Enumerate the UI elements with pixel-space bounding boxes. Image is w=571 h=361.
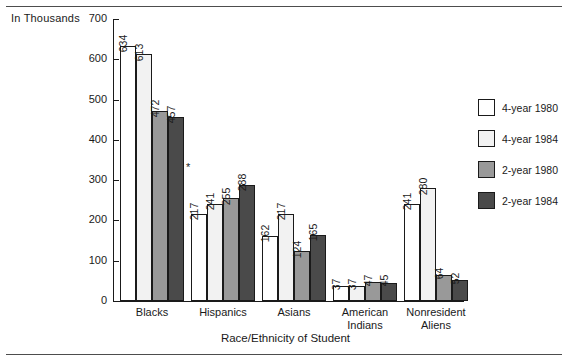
legend-label: 4-year 1980 (502, 102, 558, 114)
legend-label: 2-year 1980 (502, 164, 558, 176)
bar: 472 (152, 111, 168, 301)
bar-value-label: 613 (134, 43, 145, 61)
bar: 241 (207, 204, 223, 301)
bar: 634 (120, 46, 136, 301)
bar-value-label: 162 (260, 225, 271, 243)
bar: 124 (294, 251, 310, 301)
y-axis-unit-label: In Thousands (11, 12, 80, 24)
bar: 241 (404, 204, 420, 301)
bar: 217 (191, 214, 207, 301)
bar-value-label-wrap: 162 (260, 225, 271, 243)
x-axis-category-label: NonresidentAliens (386, 306, 486, 332)
bar-value-label-wrap: 47 (363, 274, 374, 286)
y-axis-tick-label-text: 200 (73, 214, 107, 225)
legend-label: 4-year 1984 (502, 133, 558, 145)
bar-value-label-wrap: 613 (134, 43, 145, 61)
bar-group: 217241255288 (191, 19, 255, 301)
bar-value-label-wrap: 217 (276, 203, 287, 221)
x-axis-title: Race/Ethnicity of Student (0, 332, 571, 344)
bar-value-label: 472 (150, 100, 161, 118)
legend-swatch (478, 161, 495, 178)
x-axis-category-label-line: Aliens (386, 319, 486, 332)
bar-value-label-wrap: 52 (450, 272, 461, 284)
bar: 280 (420, 188, 436, 301)
bar-value-label: 217 (276, 203, 287, 221)
bar-value-label-wrap: 217 (189, 203, 200, 221)
bar-value-label-wrap: 124 (292, 240, 303, 258)
bar-value-label-wrap: 634 (118, 35, 129, 53)
bar-value-label-wrap: 241 (402, 193, 413, 211)
x-axis-line (113, 301, 464, 302)
chart-figure: In Thousands 0100200300400500600700 6346… (0, 0, 571, 361)
bar: 255 (223, 198, 239, 301)
y-axis-tick-label-text: 100 (73, 255, 107, 266)
bar-value-label: 457 (166, 106, 177, 124)
bar-group: 2412806452 (404, 19, 468, 301)
y-axis-tick-label-text: 700 (73, 13, 107, 24)
y-axis-tick-label: 500 (73, 94, 107, 105)
bar: 37 (349, 286, 365, 301)
bar-value-label-wrap: 280 (418, 177, 429, 195)
bar: 288 (239, 185, 255, 301)
y-axis-tick-label: 700 (73, 13, 107, 24)
bar: 162 (262, 236, 278, 301)
bar-group: 37374745 (333, 19, 397, 301)
bar-value-label: 165 (308, 224, 319, 242)
legend-swatch (478, 192, 495, 209)
bar-value-label-wrap: 288 (237, 174, 248, 192)
bar-value-label-wrap: 165 (308, 224, 319, 242)
bar-group: 162217124165 (262, 19, 326, 301)
bar-value-label: 217 (189, 203, 200, 221)
bar-value-label: 241 (402, 193, 413, 211)
bar: 165 (310, 235, 326, 301)
y-axis-tick-label: 100 (73, 255, 107, 266)
y-axis-tick-label-text: 500 (73, 94, 107, 105)
bar: 457 (168, 117, 184, 301)
bar-value-label: 52 (450, 272, 461, 284)
bar-value-label: 45 (379, 275, 390, 287)
y-axis-tick-label-text: 300 (73, 174, 107, 185)
y-axis-tick-label-text: 600 (73, 53, 107, 64)
bar-value-label: 255 (221, 188, 232, 206)
asterisk-annotation: * (186, 163, 190, 172)
bar: 45 (381, 283, 397, 301)
bar-value-label: 37 (347, 278, 358, 290)
bar-value-label-wrap: 64 (434, 267, 445, 279)
y-axis-tick-label: 400 (73, 134, 107, 145)
y-axis-tick-label: 600 (73, 53, 107, 64)
y-axis-tick-label-text: 400 (73, 134, 107, 145)
bar-value-label-wrap: 37 (331, 278, 342, 290)
bar-value-label-wrap: 472 (150, 100, 161, 118)
y-axis-tick-label: 0 (73, 295, 107, 306)
bar-value-label-wrap: 241 (205, 193, 216, 211)
bar: 613 (136, 54, 152, 301)
bar-value-label-wrap: 37 (347, 278, 358, 290)
legend-swatch (478, 130, 495, 147)
y-axis-tick-label: 300 (73, 174, 107, 185)
y-axis-tick-label: 200 (73, 214, 107, 225)
bar-value-label-wrap: 457 (166, 106, 177, 124)
bar: 52 (452, 280, 468, 301)
legend-label: 2-year 1984 (502, 195, 558, 207)
x-axis-category-label-line: Nonresident (386, 306, 486, 319)
bar-value-label: 634 (118, 35, 129, 53)
bar-value-label: 241 (205, 193, 216, 211)
bottom-divider-rule (6, 354, 562, 355)
bar-group: 634613472457 (120, 19, 184, 301)
bar-value-label-wrap: 255 (221, 188, 232, 206)
bar-value-label: 124 (292, 240, 303, 258)
bar-value-label: 280 (418, 177, 429, 195)
bar-value-label-wrap: 45 (379, 275, 390, 287)
bar-value-label: 47 (363, 274, 374, 286)
legend-swatch (478, 99, 495, 116)
y-axis-tick-label-text: 0 (73, 295, 107, 306)
bar-value-label: 37 (331, 278, 342, 290)
plot-area: 6346134724572172412552881622171241653737… (113, 19, 464, 301)
bar-value-label: 288 (237, 174, 248, 192)
y-axis-tick (114, 301, 119, 302)
top-divider-rule (6, 6, 562, 7)
bar-value-label: 64 (434, 267, 445, 279)
